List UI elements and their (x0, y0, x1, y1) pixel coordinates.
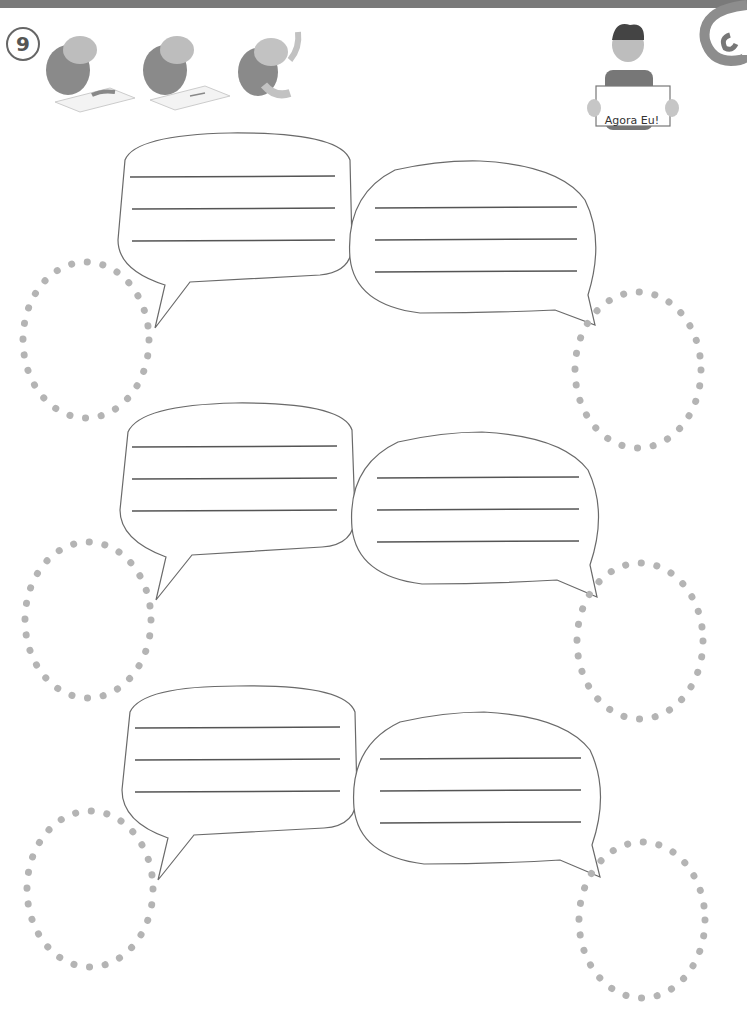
speech-bubble-row3-left (122, 686, 357, 880)
portrait-circle-row3-left (27, 811, 153, 967)
speech-bubble-row1-right (350, 161, 596, 325)
portrait-circle-row2-right (577, 563, 703, 719)
worksheet-drawing (0, 0, 747, 1012)
portrait-circle-row2-left (25, 542, 151, 698)
turtle-writing-icon (143, 36, 230, 110)
spiral-icon (705, 5, 747, 61)
portrait-circle-row3-right (579, 842, 705, 998)
speech-bubble-row2-right (352, 432, 599, 597)
speech-bubble-row1-left (118, 133, 352, 328)
agora-eu-sign-text: Agora Eu! (599, 114, 665, 127)
portrait-circle-row1-right (575, 292, 701, 448)
speech-bubble-row3-right (354, 712, 601, 877)
turtle-raising-hand-icon (238, 32, 298, 96)
turtle-drawing-icon (46, 36, 135, 112)
speech-bubble-row2-left (120, 403, 355, 600)
portrait-circle-row1-left (23, 262, 149, 418)
